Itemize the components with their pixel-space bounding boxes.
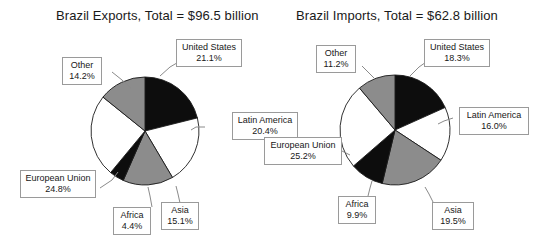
callout-value: 11.2% — [321, 59, 351, 70]
callout-imports-latin-america[interactable]: Latin America 16.0% — [459, 107, 529, 135]
callout-imports-other[interactable]: Other 11.2% — [316, 45, 356, 73]
callout-value: 21.1% — [181, 53, 237, 64]
leader-exports-africa — [148, 187, 152, 207]
exports-pie — [91, 77, 199, 185]
leader-exports-asia — [176, 186, 180, 203]
callout-value: 20.4% — [237, 126, 293, 137]
imports-pie — [340, 75, 450, 185]
callout-exports-other[interactable]: Other 14.2% — [62, 57, 102, 85]
callout-imports-africa[interactable]: Africa 9.9% — [338, 196, 376, 224]
callout-imports-asia[interactable]: Asia 19.5% — [432, 202, 474, 230]
callout-label: European Union — [25, 173, 91, 184]
callout-label: Africa — [118, 210, 146, 221]
leader-imports-asia — [425, 187, 433, 202]
callout-exports-africa[interactable]: Africa 4.4% — [113, 207, 151, 235]
callout-label: Other — [67, 60, 97, 71]
callout-value: 18.3% — [429, 53, 485, 64]
callout-value: 9.9% — [343, 210, 371, 221]
leader-imports-other — [362, 66, 378, 82]
callout-exports-european-union[interactable]: European Union 24.8% — [20, 170, 96, 198]
callout-imports-united-states[interactable]: United States 18.3% — [424, 39, 490, 67]
callout-imports-european-union[interactable]: European Union 25.2% — [264, 137, 342, 165]
callout-value: 19.5% — [437, 216, 469, 227]
callout-value: 25.2% — [269, 151, 337, 162]
callout-value: 24.8% — [25, 184, 91, 195]
callout-label: Other — [321, 48, 351, 59]
callout-value: 15.1% — [166, 216, 194, 227]
callout-exports-latin-america[interactable]: Latin America 20.4% — [232, 112, 298, 140]
callout-value: 14.2% — [67, 71, 97, 82]
callout-value: 16.0% — [464, 121, 524, 132]
callout-label: United States — [181, 42, 237, 53]
callout-label: Asia — [437, 205, 469, 216]
callout-label: Africa — [343, 199, 371, 210]
callout-label: United States — [429, 42, 485, 53]
callout-label: Latin America — [237, 115, 293, 126]
callout-label: Asia — [166, 205, 194, 216]
callout-exports-asia[interactable]: Asia 15.1% — [161, 202, 199, 230]
callout-exports-united-states[interactable]: United States 21.1% — [176, 39, 242, 67]
callout-value: 4.4% — [118, 221, 146, 232]
figure-canvas: Brazil Exports, Total = $96.5 billion Br… — [0, 0, 541, 245]
leader-imports-africa — [368, 181, 372, 196]
callout-label: Latin America — [464, 110, 524, 121]
callout-label: European Union — [269, 140, 337, 151]
